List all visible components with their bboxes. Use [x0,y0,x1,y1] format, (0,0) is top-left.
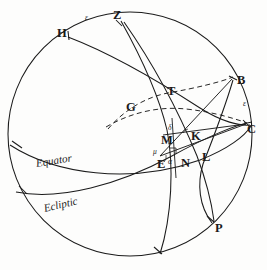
label-point-k: K [191,130,201,143]
label-point-h: H [57,27,67,40]
tick-marks [12,20,250,254]
label-point-b: B [237,74,245,87]
label-point-t: T [167,85,175,98]
label-epsilon-top: ε [85,14,88,22]
label-point-l: L [202,151,210,164]
label-point-p: P [215,222,223,235]
label-point-e: E [157,158,165,171]
label-point-c: C [247,123,256,136]
celestial-sphere-figure: Equator Ecliptic H Z B C G T M K E N L P… [0,0,267,270]
chord-c-to-m [163,124,246,135]
label-point-g: G [126,101,136,114]
label-mu: μ [153,148,157,156]
label-delta: δ [168,124,172,132]
label-epsilon-right: ε [243,100,246,108]
tick-at-h [68,31,69,40]
label-point-m: M [161,134,173,147]
label-point-n: N [181,157,190,170]
sphere-drawing [0,0,267,270]
label-point-z: Z [113,9,121,22]
label-alpha: α [168,158,172,166]
